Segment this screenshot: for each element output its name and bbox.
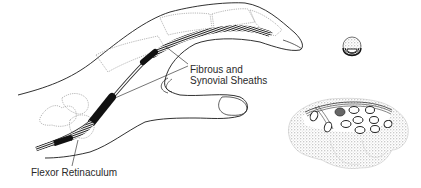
label-fibrous-synovial-sheaths: Fibrous and Synovial Sheaths: [190, 64, 267, 86]
label-sheaths-line1: Fibrous and: [190, 64, 267, 75]
finger-cross-section-inset: [343, 37, 361, 56]
label-sheaths-line2: Synovial Sheaths: [190, 75, 267, 86]
hand-diagram: Fibrous and Synovial Sheaths Flexor Reti…: [0, 0, 421, 188]
carpal-tunnel-inset: [288, 98, 408, 168]
label-flexor-retinaculum: Flexor Retinaculum: [31, 167, 117, 178]
hand-illustration: [0, 0, 421, 188]
